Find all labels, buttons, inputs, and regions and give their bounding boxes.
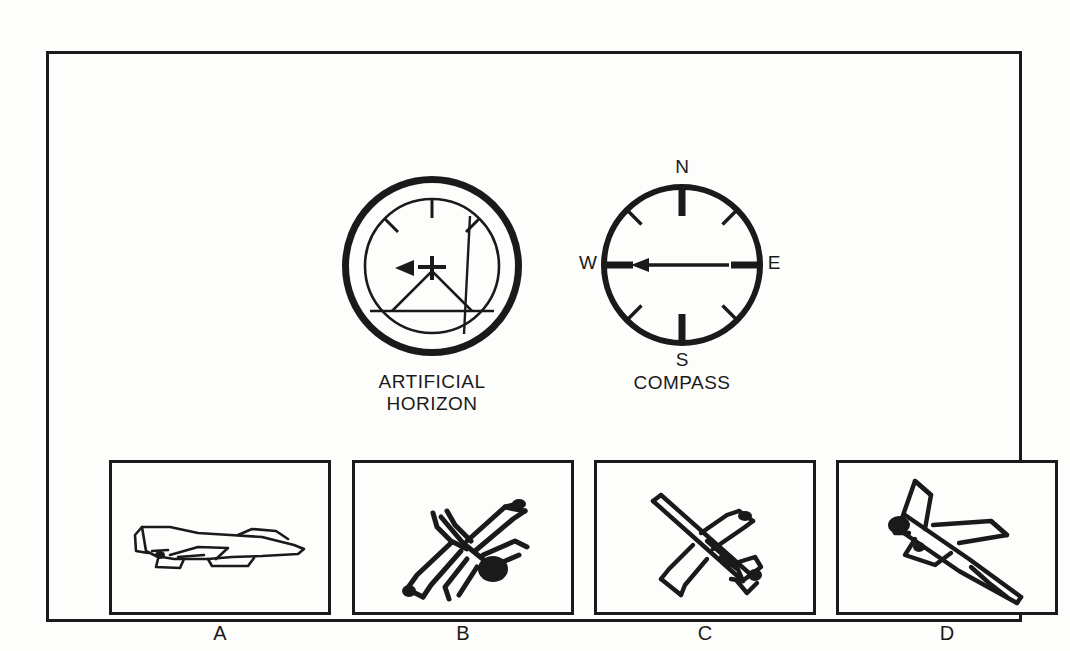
answer-panel-c[interactable] [594, 460, 816, 615]
compass-needle [631, 258, 729, 272]
compass-instrument: N S E W COMPASS [589, 172, 775, 358]
answer-label-c: C [594, 622, 816, 645]
compass-caption: COMPASS [589, 372, 775, 394]
aircraft-illustration-c [597, 463, 813, 612]
compass-label-south: S [662, 349, 702, 371]
answer-panel-b[interactable] [352, 460, 574, 615]
artificial-horizon-instrument: ARTIFICIAL HORIZON [342, 176, 522, 356]
answer-label-d: D [836, 622, 1058, 645]
aircraft-nose-mass-d [888, 516, 910, 534]
aircraft-wingtip2-b [402, 585, 416, 597]
answer-panel-d[interactable] [836, 460, 1058, 615]
compass-label-north: N [662, 156, 702, 178]
compass-label-west: W [577, 252, 599, 274]
figure-outer-frame: ARTIFICIAL HORIZON [46, 51, 1022, 622]
answer-panel-a[interactable] [109, 460, 331, 615]
answer-label-a: A [109, 622, 331, 645]
aircraft-detail-a [155, 551, 165, 559]
figure-page: ARTIFICIAL HORIZON [0, 0, 1070, 651]
left-pointer-triangle [395, 260, 414, 276]
aircraft-exhaust-b [478, 556, 508, 582]
center-cross-marker [418, 256, 446, 280]
vertical-reference-line [464, 216, 470, 334]
aircraft-illustration-a [112, 463, 328, 612]
compass-label-east: E [763, 252, 785, 274]
aircraft-tailtip-c [748, 569, 762, 581]
artificial-horizon-dial [342, 176, 522, 356]
aircraft-detail-d [913, 542, 925, 552]
artificial-horizon-caption: ARTIFICIAL HORIZON [342, 371, 522, 415]
aircraft-illustration-d [839, 463, 1055, 612]
aircraft-wingtip-c [738, 511, 752, 521]
aircraft-illustration-b [355, 463, 571, 612]
answer-label-b: B [352, 622, 574, 645]
bank-angle-ticks [385, 199, 480, 232]
compass-dial [589, 172, 775, 358]
aircraft-wingtip-b [512, 499, 526, 509]
